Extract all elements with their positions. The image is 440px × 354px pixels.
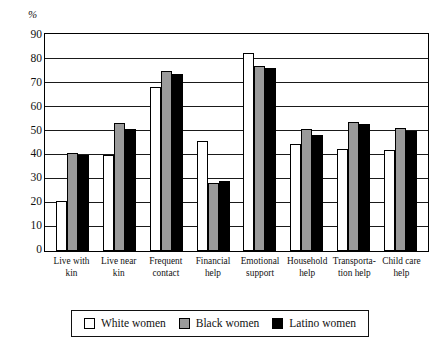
y-axis-tick: 20: [16, 197, 42, 209]
plot-area: [44, 33, 429, 252]
y-axis-tick: 10: [16, 221, 42, 233]
bar-group: [143, 34, 190, 251]
y-axis-unit-label: %: [28, 8, 37, 20]
legend-label: White women: [101, 318, 166, 330]
x-axis-label-line: tion help: [331, 268, 378, 280]
bar: [219, 181, 230, 251]
bar-group: [190, 34, 237, 251]
bar: [312, 135, 323, 251]
x-axis-label-line: Emotional: [237, 256, 284, 268]
bar-group: [377, 34, 424, 251]
x-axis-label-line: Live with: [48, 256, 95, 268]
bar: [197, 141, 208, 251]
bar: [150, 87, 161, 251]
bar: [208, 183, 219, 251]
y-axis-tick: 40: [16, 149, 42, 161]
x-axis-label: Child carehelp: [378, 256, 425, 292]
bar: [114, 123, 125, 251]
bar: [337, 149, 348, 251]
y-axis-tick: 0: [16, 245, 42, 257]
legend-swatch-icon: [272, 318, 283, 329]
x-axis-label-line: Frequent: [142, 256, 189, 268]
legend-label: Latino women: [289, 318, 356, 330]
x-axis-label: Live withkin: [48, 256, 95, 292]
x-axis-label: Emotionalsupport: [237, 256, 284, 292]
bar: [290, 144, 301, 251]
x-axis-label-line: Household: [284, 256, 331, 268]
x-axis-label: Live nearkin: [95, 256, 142, 292]
x-axis-label-line: help: [189, 268, 236, 280]
bar: [254, 66, 265, 251]
bar-group: [96, 34, 143, 251]
x-axis-label-line: support: [237, 268, 284, 280]
x-axis-label-line: Live near: [95, 256, 142, 268]
bar: [56, 201, 67, 251]
x-axis-label: Frequentcontact: [142, 256, 189, 292]
grouped-bar-chart: % 9080706050403020100 Live withkinLive n…: [0, 0, 440, 354]
x-axis-label-line: kin: [95, 268, 142, 280]
bar: [301, 129, 312, 251]
bar: [67, 153, 78, 251]
bar-group: [49, 34, 96, 251]
x-axis-label-line: contact: [142, 268, 189, 280]
y-axis-tick: 50: [16, 125, 42, 137]
bar: [348, 122, 359, 251]
x-axis-label-line: help: [284, 268, 331, 280]
legend-swatch-icon: [179, 318, 190, 329]
x-axis-label-line: Child care: [378, 256, 425, 268]
bar: [395, 128, 406, 251]
x-axis-label: Transporta-tion help: [331, 256, 378, 292]
bar: [406, 131, 417, 251]
bar: [161, 71, 172, 251]
x-axis-label-line: kin: [48, 268, 95, 280]
y-axis-tick: 80: [16, 53, 42, 65]
x-axis-label-line: Transporta-: [331, 256, 378, 268]
y-axis-tick: 30: [16, 173, 42, 185]
legend-item: Latino women: [272, 318, 356, 330]
bar: [125, 129, 136, 251]
x-axis-label: Householdhelp: [284, 256, 331, 292]
chart-legend: White womenBlack womenLatino women: [71, 310, 369, 337]
bar: [78, 155, 89, 251]
bar: [384, 150, 395, 251]
legend-label: Black women: [196, 318, 260, 330]
bar: [265, 68, 276, 251]
y-axis-tick-labels: 9080706050403020100: [16, 33, 42, 252]
bar: [359, 124, 370, 251]
y-axis-tick: 70: [16, 77, 42, 89]
bar-group: [237, 34, 284, 251]
bar: [103, 155, 114, 251]
bar: [243, 53, 254, 251]
legend-item: Black women: [179, 318, 260, 330]
x-axis-label: Financialhelp: [189, 256, 236, 292]
legend-swatch-icon: [84, 318, 95, 329]
y-axis-tick: 90: [16, 29, 42, 41]
bar-group: [330, 34, 377, 251]
y-axis-tick: 60: [16, 101, 42, 113]
x-axis-category-labels: Live withkinLive nearkinFrequentcontactF…: [44, 256, 429, 292]
bars-layer: [45, 34, 428, 251]
x-axis-label-line: help: [378, 268, 425, 280]
bar-group: [283, 34, 330, 251]
legend-item: White women: [84, 318, 166, 330]
bar: [172, 74, 183, 251]
x-axis-label-line: Financial: [189, 256, 236, 268]
